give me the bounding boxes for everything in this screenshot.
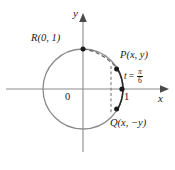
x-tick-one-label: 1: [124, 92, 129, 103]
x-axis-label: x: [158, 93, 163, 104]
unit-circle-figure: y x 0 1 R(0, 1) P(x, y) Q(x, −y) t=π6: [0, 0, 175, 170]
arc-fraction-denominator: 6: [137, 77, 143, 85]
arc-equals-sign: =: [129, 71, 134, 81]
point-p-label: P(x, y): [120, 50, 148, 61]
point-p: [114, 67, 119, 72]
point-r: [81, 47, 86, 52]
point-q: [114, 107, 119, 112]
origin-label: 0: [65, 92, 70, 103]
y-axis-label: y: [73, 8, 78, 19]
point-q-label: Q(x, −y): [110, 118, 146, 129]
arc-fraction: π6: [137, 68, 143, 86]
y-axis: [79, 13, 87, 152]
arc-variable-t: t: [124, 71, 127, 81]
arc-length-annotation: t=π6: [124, 68, 143, 86]
figure-canvas: [0, 0, 175, 170]
y-axis-arrowhead: [79, 13, 87, 22]
chord-r-to-p: [83, 49, 118, 69]
point-r-label: R(0, 1): [31, 33, 60, 44]
x-axis: [6, 85, 169, 93]
arc-fraction-numerator: π: [137, 68, 143, 76]
